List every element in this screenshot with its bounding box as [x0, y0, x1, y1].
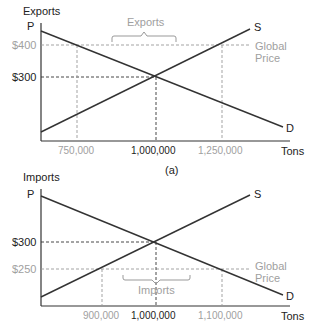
- y-tick-400: $400: [12, 40, 36, 51]
- demand-label: D: [286, 123, 294, 134]
- x-tick-1100000: 1,100,000: [198, 311, 243, 321]
- imports-bracket-label: Imports: [138, 285, 175, 296]
- global-price-label-1: Global: [255, 261, 287, 272]
- x-tick-900000: 900,000: [83, 311, 119, 321]
- supply-label: S: [254, 22, 261, 33]
- exports-title: Exports: [23, 6, 60, 17]
- global-price-label-1: Global: [255, 41, 287, 52]
- caption: (a): [165, 165, 178, 176]
- x-tick-1000000: 1,000,000: [131, 146, 176, 156]
- x-tick-1250000: 1,250,000: [198, 146, 243, 156]
- y-tick-300: $300: [12, 237, 36, 248]
- x-axis-label: Tons: [281, 311, 304, 322]
- global-price-label-2: Price: [255, 273, 280, 284]
- exports-chart: [41, 23, 290, 141]
- supply-curve: [41, 195, 250, 297]
- x-tick-750000: 750,000: [58, 146, 94, 156]
- y-tick-250: $250: [12, 264, 36, 275]
- x-axis-label: Tons: [281, 146, 304, 157]
- imports-title: Imports: [23, 172, 60, 183]
- demand-label: D: [286, 291, 294, 302]
- y-axis-label: P: [27, 21, 34, 32]
- global-price-label-2: Price: [255, 53, 280, 64]
- supply-curve: [41, 29, 250, 132]
- exports-bracket-label: Exports: [127, 17, 164, 28]
- x-tick-1000000: 1,000,000: [131, 311, 176, 321]
- supply-label: S: [254, 189, 261, 200]
- y-tick-300: $300: [12, 72, 36, 83]
- y-axis-label: P: [27, 189, 34, 200]
